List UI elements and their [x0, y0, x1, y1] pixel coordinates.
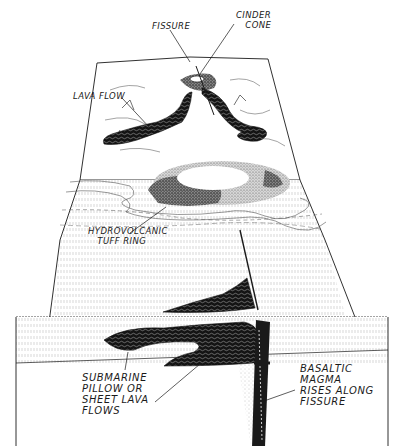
label-lava-flow: LAVA FLOW	[73, 92, 125, 102]
label-basaltic-magma: BASALTIC MAGMA RISES ALONG FISSURE	[300, 363, 374, 407]
label-submarine-lava-flows: SUBMARINE PILLOW OR SHEET LAVA FLOWS	[82, 372, 149, 416]
label-cinder-cone: CINDER CONE	[236, 11, 271, 30]
label-tuff-ring: HYDROVOLCANIC TUFF RING	[88, 227, 168, 246]
label-fissure: FISSURE	[152, 22, 190, 32]
